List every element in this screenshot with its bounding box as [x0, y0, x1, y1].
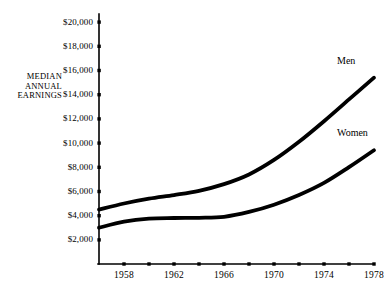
series-lines [99, 78, 374, 228]
y-axis-tick [97, 214, 100, 217]
y-axis-tick [97, 45, 100, 48]
y-axis-tick [97, 20, 100, 23]
y-axis-tick [97, 93, 100, 96]
x-axis-tick [347, 262, 350, 265]
x-axis-tick [197, 262, 200, 265]
series-line-women [99, 150, 374, 227]
axes [98, 14, 374, 264]
x-axis-tick [147, 262, 150, 265]
y-axis-tick [97, 117, 100, 120]
x-axis-tick [322, 262, 325, 265]
x-axis-tick [297, 262, 300, 265]
y-axis-tick [97, 69, 100, 72]
x-axis-tick [272, 262, 275, 265]
x-axis-tick [122, 262, 125, 265]
series-line-men [99, 78, 374, 210]
y-axis-tick [97, 238, 100, 241]
x-axis-tick [372, 262, 375, 265]
y-axis-tick [97, 141, 100, 144]
y-axis-tick [97, 190, 100, 193]
x-axis-tick [222, 262, 225, 265]
y-axis-tick [97, 166, 100, 169]
x-axis-tick [172, 262, 175, 265]
x-axis-tick [247, 262, 250, 265]
